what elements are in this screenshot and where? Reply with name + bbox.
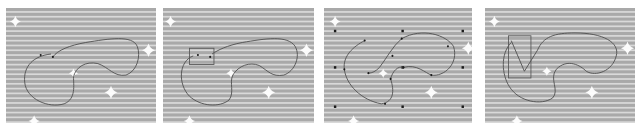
- spline-canvas-3: [324, 8, 472, 123]
- control-point: [401, 38, 403, 40]
- background-stripe: [324, 46, 472, 49]
- grid-point-marker: [462, 30, 464, 32]
- background-stripe: [324, 18, 472, 21]
- background-stripe: [485, 113, 635, 116]
- panel-step-2: [163, 8, 314, 123]
- panel-step-1: [6, 8, 156, 123]
- background-stripe: [485, 22, 635, 25]
- background-stripe: [485, 85, 635, 88]
- control-point: [40, 54, 42, 56]
- background-stripe: [163, 75, 314, 78]
- panel-step-3: [324, 8, 472, 123]
- background-stripe: [6, 118, 156, 121]
- background-stripe: [485, 89, 635, 92]
- background-stripe: [163, 80, 314, 83]
- background-stripe: [163, 22, 314, 25]
- background-stripe: [163, 27, 314, 30]
- grid-point-marker: [401, 30, 403, 32]
- control-point: [384, 103, 386, 105]
- background-stripe: [6, 109, 156, 112]
- background-stripe: [6, 94, 156, 97]
- background-stripe: [6, 75, 156, 78]
- background-stripe: [6, 85, 156, 88]
- background-stripe: [324, 109, 472, 112]
- control-point: [364, 40, 366, 42]
- background-stripe: [485, 109, 635, 112]
- background-stripe: [163, 56, 314, 59]
- control-point: [390, 78, 392, 80]
- background-stripe: [485, 8, 635, 11]
- background-stripe: [324, 27, 472, 30]
- spline-canvas-4: [485, 8, 635, 123]
- background-stripe: [485, 18, 635, 21]
- background-stripe: [163, 37, 314, 40]
- background-stripe: [485, 61, 635, 64]
- background-stripe: [485, 75, 635, 78]
- background-stripe: [163, 13, 314, 16]
- background-stripe: [163, 18, 314, 21]
- background-stripe: [6, 61, 156, 64]
- background-stripe: [163, 8, 314, 11]
- background-stripe: [6, 51, 156, 54]
- background-stripe: [324, 13, 472, 16]
- background-stripe: [324, 94, 472, 97]
- background-stripe: [485, 118, 635, 121]
- spline-canvas-1: [6, 8, 156, 123]
- background-stripe: [485, 32, 635, 35]
- control-point: [197, 54, 199, 56]
- control-point: [403, 66, 405, 68]
- background-stripe: [485, 37, 635, 40]
- control-point: [447, 45, 449, 47]
- panel-step-4: [485, 8, 635, 123]
- background-stripe: [6, 32, 156, 35]
- grid-point-marker: [462, 105, 464, 107]
- background-stripe: [163, 51, 314, 54]
- background-stripe: [163, 85, 314, 88]
- control-point: [430, 74, 432, 76]
- control-point: [343, 68, 345, 70]
- grid-point-marker: [334, 105, 336, 107]
- background-stripe: [324, 80, 472, 83]
- background-stripe: [324, 22, 472, 25]
- background-stripe: [6, 80, 156, 83]
- background-stripe: [6, 113, 156, 116]
- background-stripe: [324, 32, 472, 35]
- control-point: [209, 56, 211, 58]
- control-point: [391, 55, 393, 57]
- grid-point-marker: [401, 105, 403, 107]
- background-stripe: [6, 27, 156, 30]
- control-point: [367, 72, 369, 74]
- background-stripe: [6, 99, 156, 102]
- background-stripe: [485, 56, 635, 59]
- background-stripe: [324, 104, 472, 107]
- background-stripe: [485, 70, 635, 73]
- background-stripe: [485, 27, 635, 30]
- background-stripe: [324, 89, 472, 92]
- background-stripe: [6, 104, 156, 107]
- background-stripe: [163, 104, 314, 107]
- grid-point-marker: [334, 66, 336, 68]
- background-stripe: [6, 46, 156, 49]
- background-stripe: [324, 85, 472, 88]
- grid-point-marker: [462, 66, 464, 68]
- background-stripe: [485, 51, 635, 54]
- background-stripe: [6, 8, 156, 11]
- background-stripe: [324, 113, 472, 116]
- background-stripe: [485, 104, 635, 107]
- background-stripe: [324, 61, 472, 64]
- background-stripe: [163, 99, 314, 102]
- background-stripe: [6, 70, 156, 73]
- background-stripe: [324, 51, 472, 54]
- background-stripe: [163, 32, 314, 35]
- background-stripe: [6, 13, 156, 16]
- background-stripe: [324, 37, 472, 40]
- background-stripe: [485, 13, 635, 16]
- background-stripe: [485, 94, 635, 97]
- background-stripe: [324, 99, 472, 102]
- background-stripe: [163, 113, 314, 116]
- control-point: [52, 56, 54, 58]
- spline-canvas-2: [163, 8, 314, 123]
- background-stripe: [6, 37, 156, 40]
- background-stripe: [485, 99, 635, 102]
- grid-point-marker: [334, 30, 336, 32]
